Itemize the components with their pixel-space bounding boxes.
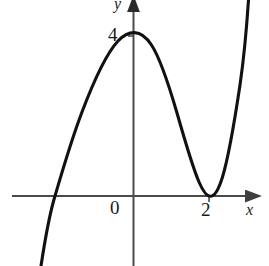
cubic-curve — [41, 0, 249, 266]
cubic-function-graph: y x 4 0 2 — [0, 0, 269, 266]
x-tick-label-2: 2 — [201, 200, 211, 219]
origin-label: 0 — [110, 198, 120, 217]
graph-canvas — [0, 0, 269, 266]
y-tick-label-4: 4 — [108, 25, 118, 44]
x-axis-label: x — [246, 202, 253, 218]
y-axis-label: y — [114, 0, 121, 12]
